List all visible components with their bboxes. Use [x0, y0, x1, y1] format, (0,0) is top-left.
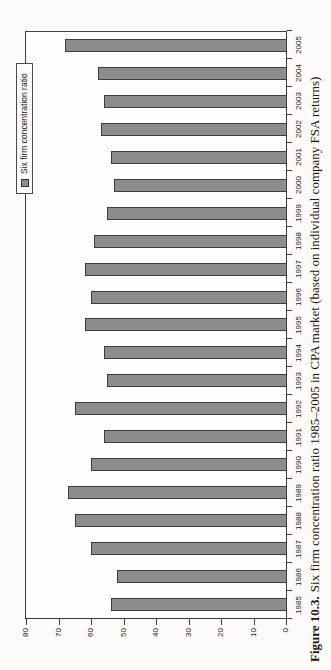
x-axis-tick-17	[287, 142, 292, 143]
bar-1992	[75, 402, 286, 415]
bar-2004	[98, 67, 287, 80]
x-axis-tick-5	[287, 478, 292, 479]
rotated-figure-sheet: 01020304050607080 1985198619871988198919…	[0, 0, 331, 670]
bar-slot-1988	[26, 506, 286, 534]
x-axis-tick-8	[287, 394, 292, 395]
bar-slot-1996	[26, 283, 286, 311]
y-axis-label-30: 30	[184, 628, 194, 670]
bar-1987	[91, 542, 286, 555]
x-axis-label-2004: 2004	[294, 59, 304, 87]
x-axis-label-1994: 1994	[294, 339, 304, 367]
x-axis-tick-3	[287, 534, 292, 535]
bar-1995	[85, 318, 287, 331]
legend: Six firm concentration ratio	[16, 63, 33, 194]
bar-slot-1992	[26, 395, 286, 423]
x-axis-label-1991: 1991	[294, 423, 304, 451]
x-axis-tick-1	[287, 590, 292, 591]
y-axis-tick-0	[286, 619, 287, 625]
bar-slot-1985	[26, 590, 286, 618]
y-axis-tick-70	[59, 619, 60, 625]
x-axis-tick-7	[287, 422, 292, 423]
bar-1997	[85, 263, 287, 276]
bar-slot-1989	[26, 478, 286, 506]
x-axis-label-1998: 1998	[294, 227, 304, 255]
bar-1994	[104, 346, 286, 359]
figure-caption-number: Figure 10.3.	[307, 596, 322, 662]
bar-slot-1993	[26, 367, 286, 395]
bar-chart-figure: 01020304050607080 1985198619871988198919…	[0, 0, 331, 670]
x-axis-tick-4	[287, 506, 292, 507]
scanned-book-page: 01020304050607080 1985198619871988198919…	[0, 0, 331, 670]
bar-slot-2001	[26, 144, 286, 172]
x-axis-label-1997: 1997	[294, 255, 304, 283]
plot-area	[25, 31, 287, 619]
bar-2002	[101, 123, 286, 136]
bar-slot-1997	[26, 255, 286, 283]
x-axis-tick-9	[287, 366, 292, 367]
bar-slot-1990	[26, 451, 286, 479]
x-axis-label-2001: 2001	[294, 143, 304, 171]
x-axis-tick-6	[287, 450, 292, 451]
y-axis-tick-80	[26, 619, 27, 625]
x-axis-label-1992: 1992	[294, 395, 304, 423]
bar-1998	[94, 235, 286, 248]
bar-slot-1995	[26, 311, 286, 339]
figure-caption: Figure 10.3.Six firm concentration ratio…	[307, 2, 323, 662]
y-axis-label-20: 20	[216, 628, 226, 670]
y-axis-tick-10	[254, 619, 255, 625]
bar-1986	[117, 570, 286, 583]
x-axis-tick-14	[287, 226, 292, 227]
y-axis-label-60: 60	[86, 628, 96, 670]
x-axis-label-1993: 1993	[294, 367, 304, 395]
bar-slot-1987	[26, 534, 286, 562]
y-axis-label-50: 50	[119, 628, 129, 670]
x-axis-label-1989: 1989	[294, 479, 304, 507]
x-axis-tick-2	[287, 562, 292, 563]
x-axis-label-1990: 1990	[294, 451, 304, 479]
y-axis-tick-20	[221, 619, 222, 625]
bar-1985	[111, 598, 287, 611]
x-axis-label-1986: 1986	[294, 563, 304, 591]
bar-slot-2003	[26, 88, 286, 116]
x-axis-tick-0	[287, 618, 292, 619]
bar-1996	[91, 291, 286, 304]
x-axis-label-1995: 1995	[294, 311, 304, 339]
bar-2003	[104, 95, 286, 108]
bar-slot-2000	[26, 172, 286, 200]
x-axis-labels: 1985198619871988198919901991199219931994…	[294, 31, 304, 619]
x-axis-label-1985: 1985	[294, 591, 304, 619]
x-axis-tick-13	[287, 254, 292, 255]
y-axis-tick-60	[91, 619, 92, 625]
x-axis-label-1987: 1987	[294, 535, 304, 563]
bar-2001	[111, 151, 287, 164]
bar-slot-2004	[26, 60, 286, 88]
bar-2005	[65, 39, 286, 52]
y-axis-tick-40	[156, 619, 157, 625]
x-axis-label-1988: 1988	[294, 507, 304, 535]
bar-slot-1998	[26, 227, 286, 255]
bar-slot-1991	[26, 423, 286, 451]
bar-slot-2005	[26, 32, 286, 60]
bar-slot-1999	[26, 199, 286, 227]
x-axis-label-2000: 2000	[294, 171, 304, 199]
x-axis-label-1996: 1996	[294, 283, 304, 311]
bar-2000	[114, 179, 286, 192]
figure-caption-text: Six firm concentration ratio 1985–2005 i…	[307, 77, 322, 592]
x-axis-tick-15	[287, 198, 292, 199]
x-axis-label-1999: 1999	[294, 199, 304, 227]
bars-row	[26, 32, 286, 618]
bar-1990	[91, 458, 286, 471]
legend-series-swatch-icon	[21, 179, 29, 187]
y-axis-label-80: 80	[21, 628, 31, 670]
y-axis-label-40: 40	[151, 628, 161, 670]
bar-slot-1994	[26, 339, 286, 367]
bar-1999	[107, 207, 286, 220]
x-axis-tick-10	[287, 338, 292, 339]
legend-label: Six firm concentration ratio	[20, 73, 29, 174]
x-axis-tick-20	[287, 58, 292, 59]
bar-slot-2002	[26, 116, 286, 144]
x-axis-tick-16	[287, 170, 292, 171]
x-axis-label-2005: 2005	[294, 31, 304, 59]
bar-1988	[75, 514, 286, 527]
y-axis-tick-50	[124, 619, 125, 625]
